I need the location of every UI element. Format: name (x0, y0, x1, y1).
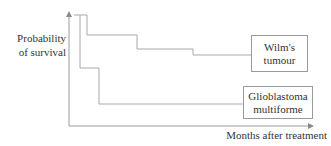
y-axis-arrow-icon (66, 11, 72, 17)
y-axis-label-line2: of survival (2, 45, 66, 59)
glio-label-line1: Glioblastoma (248, 90, 307, 103)
wilms-label-line1: Wilm's (264, 41, 295, 54)
wilms-tumour-label-box: Wilm's tumour (251, 35, 308, 72)
x-axis-label: Months after treatment (205, 128, 327, 142)
glioblastoma-label-box: Glioblastoma multiforme (243, 86, 313, 119)
survival-chart (0, 0, 331, 146)
glio-label-line2: multiforme (253, 103, 303, 116)
y-axis-label-line1: Probability (2, 31, 66, 45)
y-axis-label: Probability of survival (2, 31, 66, 59)
wilms-label-line2: tumour (264, 54, 296, 67)
wilms-curve (87, 15, 251, 55)
glioblastoma-curve (80, 15, 243, 104)
